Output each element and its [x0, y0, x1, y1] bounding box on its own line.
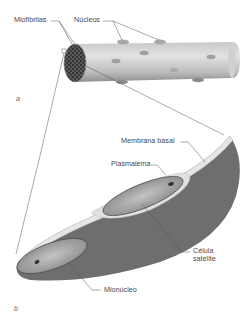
- label-satellite-cell-line2: satélite: [193, 254, 216, 263]
- panel-b-letter: b: [14, 305, 18, 312]
- label-basal-membrane: Membrana basal: [121, 137, 175, 145]
- label-plasmalemma: Plasmalema: [111, 160, 151, 168]
- label-myonucleus: Mionúcleo: [104, 286, 137, 294]
- panel-a-letter: a: [16, 95, 20, 102]
- myofibrils-cross-section: [64, 44, 86, 82]
- label-nuclei: Núcleos: [74, 16, 100, 24]
- label-satellite-cell: Célula satélite: [193, 247, 216, 264]
- label-myofibrils: Miofibrilas: [14, 16, 46, 24]
- muscle-fiber-cylinder: [62, 39, 240, 84]
- zoom-box: [62, 49, 66, 53]
